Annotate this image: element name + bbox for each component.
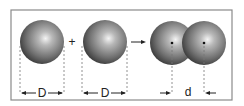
center-dot-2 [203, 42, 206, 45]
diameter-label-2: D [101, 86, 110, 100]
center-dot-1 [171, 42, 174, 45]
distance-label: d [185, 85, 192, 99]
diameter-label-1: D [38, 86, 47, 100]
sphere-merging-diagram: D + D d [0, 0, 244, 106]
plus-sign: + [68, 35, 75, 49]
